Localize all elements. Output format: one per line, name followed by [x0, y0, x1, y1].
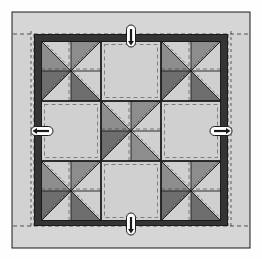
plain-square-top-center-fill: [101, 41, 161, 101]
plain-square-top-center: [101, 41, 161, 101]
plain-square-bottom-center: [101, 161, 161, 221]
block-grid: [41, 41, 221, 221]
pinwheel-block-top-right: [161, 41, 221, 101]
quilt-diagram-figure: Pinwheel Quilt Block Assembly Diagram Ni…: [0, 0, 262, 259]
arrow-marker-bottom: [127, 213, 136, 235]
pinwheel-block-center: [101, 101, 161, 161]
pinwheel-block-bottom-left: [41, 161, 101, 221]
arrow-marker-right: [210, 127, 232, 136]
pinwheel-block-top-left: [41, 41, 101, 101]
arrow-marker-left: [31, 127, 53, 136]
quilt-diagram-canvas: [0, 0, 262, 259]
plain-square-bottom-center-fill: [101, 161, 161, 221]
pinwheel-block-bottom-right: [161, 161, 221, 221]
arrow-marker-top: [127, 25, 136, 47]
